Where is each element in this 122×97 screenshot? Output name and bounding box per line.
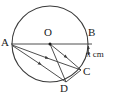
point-label-a: A xyxy=(1,37,9,48)
centre-point-dot xyxy=(49,43,52,46)
segment-ac-first-half xyxy=(12,45,47,58)
point-label-d: D xyxy=(60,83,68,94)
segment-ad-first-half xyxy=(13,46,40,64)
arc-length-label: π cm xyxy=(86,50,104,59)
segment-cd xyxy=(66,70,81,82)
geometry-figure: A O B C D π cm xyxy=(0,0,122,97)
point-label-o: O xyxy=(44,27,52,38)
segment-ac-second-half xyxy=(47,58,81,70)
point-label-b: B xyxy=(88,27,95,38)
point-label-c: C xyxy=(83,66,90,77)
segment-oc-second-half xyxy=(66,57,81,70)
